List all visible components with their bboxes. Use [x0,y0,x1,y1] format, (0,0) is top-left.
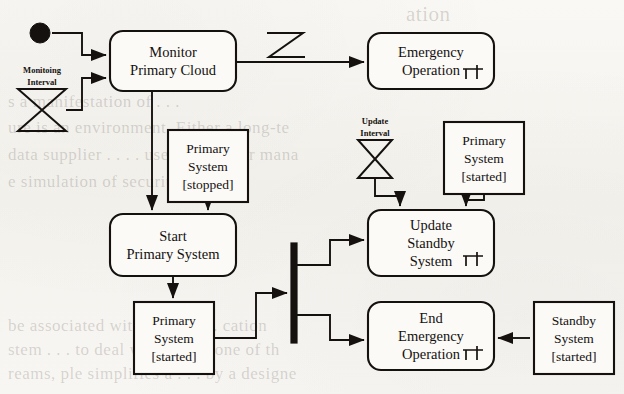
activity-node-label-line: Emergency [398,44,465,60]
object-node-label-line: [stopped] [183,177,234,192]
object-node-label-line: Primary [186,141,230,156]
initial-node [30,23,50,43]
scanned-page: ations a manifestation of . . .ure is an… [0,0,624,394]
activity-node-label-line: Primary System [126,246,220,262]
object-node-primary-system-started-right: PrimarySystem[started] [444,122,524,194]
activity-node-label-line: Start [159,228,186,244]
edge-update-timer-to-update [375,178,400,206]
object-node-standby-system-started: StandbySystem[started] [534,302,614,374]
object-node-label-line: System [554,331,594,346]
edge-fork-to-end-emergency [297,315,364,340]
activity-node-label-line: Primary Cloud [130,62,217,78]
timer-label-line: Update [362,116,389,126]
fork-join-bar-shape [291,243,297,343]
object-node-label-line: Standby [552,313,597,328]
activity-node-label-line: End [419,310,443,326]
monitoing-interval-timer: MonitoingInterval [18,65,66,131]
activity-node-shape [110,31,236,91]
signal-zigzag-icon [267,33,305,57]
activity-node-end-emergency-operation: EndEmergencyOperation [368,302,494,370]
object-node-label-line: [started] [552,349,597,364]
activity-node-shape [368,33,494,89]
uml-activity-diagram: MonitoingIntervalUpdateInterval PrimaryS… [0,0,624,394]
hourglass-timer-icon [18,89,66,131]
edge-initial-to-monitor [52,33,106,55]
activity-node-shape [110,214,236,276]
activity-node-label-line: System [410,253,453,269]
hourglass-timer-icon [358,140,392,178]
edge-monitoing-timer-to-monitor [66,78,106,110]
object-node-label-line: System [464,151,504,166]
edge-started-bottom-to-fork [214,293,287,338]
timer-label-line: Monitoing [23,65,62,75]
object-node-label-line: Primary [152,313,196,328]
initial-node-dot [30,23,50,43]
activity-node-label-line: Operation [402,346,461,362]
edge-fork-to-update [297,240,364,265]
activity-node-label-line: Update [410,217,452,233]
update-interval-timer: UpdateInterval [358,116,392,178]
object-node-label-line: Primary [462,133,506,148]
object-node-label-line: [started] [152,349,197,364]
fork-join-bar [291,243,297,343]
activity-node-start-primary-system: StartPrimary System [110,214,236,276]
object-node-label-line: [started] [462,169,507,184]
object-node-primary-system-stopped: PrimarySystem[stopped] [168,130,248,202]
edge-started-right-to-update [466,194,484,206]
activity-node-emergency-operation: EmergencyOperation [368,33,494,89]
activity-node-update-standby-system: UpdateStandbySystem [368,210,494,276]
timer-label-line: Interval [27,77,57,87]
activity-node-label-line: Monitor [149,44,197,60]
object-node-label-line: System [154,331,194,346]
object-node-primary-system-started-bottom: PrimarySystem[started] [134,302,214,374]
activity-node-label-line: Standby [407,235,455,251]
timer-label-line: Interval [360,128,390,138]
activity-node-monitor-primary-cloud: MonitorPrimary Cloud [110,31,236,91]
activity-node-label-line: Emergency [398,328,465,344]
activity-node-label-line: Operation [402,62,461,78]
signal-zigzag-glyph [267,33,305,57]
object-node-label-line: System [188,159,228,174]
